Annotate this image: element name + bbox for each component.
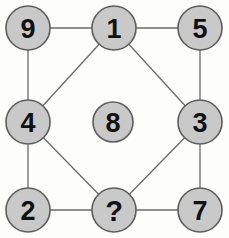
number-graph-puzzle: 9154832?7 xyxy=(0,0,229,238)
nodes-group: 9154832?7 xyxy=(6,6,222,232)
edge-?-3 xyxy=(129,137,186,195)
node-label-bottom-left: 2 xyxy=(20,196,35,226)
node-label-middle-right: 3 xyxy=(192,108,207,138)
node-label-center: 8 xyxy=(105,108,120,138)
node-bottom-right[interactable]: 7 xyxy=(178,188,222,232)
node-label-top-right: 5 xyxy=(192,14,207,44)
node-bottom-center[interactable]: ? xyxy=(92,188,136,232)
graph-canvas: 9154832?7 xyxy=(0,0,229,238)
node-top-center[interactable]: 1 xyxy=(92,6,136,50)
node-label-top-left: 9 xyxy=(20,14,35,44)
node-top-right[interactable]: 5 xyxy=(178,6,222,50)
edge-4-? xyxy=(43,137,100,195)
node-label-middle-left: 4 xyxy=(20,108,35,138)
node-label-top-center: 1 xyxy=(106,14,121,44)
node-label-bottom-right: 7 xyxy=(192,196,207,226)
edge-4-1 xyxy=(42,43,100,106)
node-bottom-left[interactable]: 2 xyxy=(6,188,50,232)
node-middle-right[interactable]: 3 xyxy=(178,100,222,144)
edge-1-3 xyxy=(128,43,186,106)
node-center[interactable]: 8 xyxy=(93,102,133,142)
node-label-bottom-center: ? xyxy=(105,195,123,227)
node-middle-left[interactable]: 4 xyxy=(6,100,50,144)
node-top-left[interactable]: 9 xyxy=(6,6,50,50)
